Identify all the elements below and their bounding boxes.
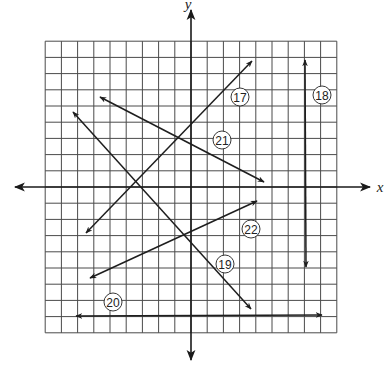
y-axis-label: y [183,0,192,12]
label-text: 19 [218,258,232,272]
coordinate-plane: x y 171819202122 [0,0,387,366]
line-label-22: 22 [242,220,260,238]
line-label-20: 20 [104,293,122,311]
label-text: 21 [215,134,229,148]
line-labels: 171819202122 [104,86,331,311]
graph-line-18 [305,60,306,267]
line-label-21: 21 [213,131,231,149]
label-text: 22 [244,223,258,237]
label-text: 17 [233,91,247,105]
axes: x y [15,0,384,360]
label-text: 18 [315,89,329,103]
line-label-18: 18 [313,86,331,104]
line-label-19: 19 [216,255,234,273]
line-label-17: 17 [231,88,249,106]
x-axis-label: x [376,179,384,195]
graph-line-20 [76,315,322,316]
label-text: 20 [106,296,120,310]
